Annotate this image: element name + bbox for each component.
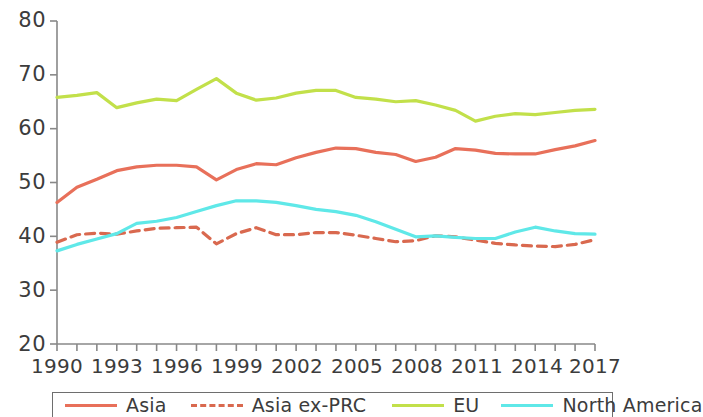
legend-item-asia-ex-prc[interactable]: Asia ex-PRC xyxy=(191,393,367,417)
legend-item-asia[interactable]: Asia xyxy=(65,393,167,417)
legend-swatch-asia-ex-prc xyxy=(191,404,243,407)
legend-swatch-asia xyxy=(65,404,117,407)
legend-label-eu: EU xyxy=(453,394,479,416)
series-line-asia-ex-prc xyxy=(57,227,595,246)
legend-swatch-north-america xyxy=(501,404,553,407)
series-line-eu xyxy=(57,79,595,122)
legend-swatch-eu xyxy=(392,404,444,407)
legend-label-asia-ex-prc: Asia ex-PRC xyxy=(252,394,367,416)
data-series-group xyxy=(57,79,595,251)
chart-legend: Asia Asia ex-PRC EU North America xyxy=(52,392,613,417)
legend-label-north-america: North America xyxy=(562,394,702,416)
series-line-asia xyxy=(57,141,595,203)
legend-label-asia: Asia xyxy=(126,394,167,416)
legend-item-eu[interactable]: EU xyxy=(392,393,479,417)
axes xyxy=(50,21,595,351)
legend-item-north-america[interactable]: North America xyxy=(501,393,702,417)
